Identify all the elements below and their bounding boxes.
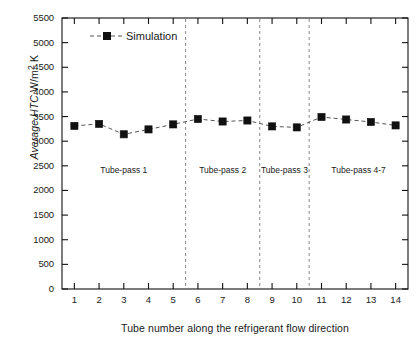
y-axis-tick-label: 2000 [20, 184, 54, 195]
data-point-marker [367, 118, 374, 125]
data-point-marker [96, 120, 103, 127]
tube-pass-label: Tube-pass 3 [261, 165, 308, 175]
y-axis-tick-label: 500 [20, 258, 54, 269]
plot-area [0, 0, 420, 350]
data-point-marker [293, 124, 300, 131]
x-axis-tick-label: 10 [287, 294, 307, 305]
y-axis-tick-label: 5000 [20, 37, 54, 48]
data-point-marker [343, 116, 350, 123]
x-axis-tick-label: 1 [64, 294, 84, 305]
y-axis-tick-label: 4000 [20, 86, 54, 97]
data-point-marker [318, 113, 325, 120]
x-axis-tick-label: 2 [89, 294, 109, 305]
y-axis-tick-label: 5500 [20, 12, 54, 23]
data-point-marker [219, 118, 226, 125]
chart-figure: Average HTC W/m2 K Tube number along the… [0, 0, 420, 350]
y-axis-tick-label: 3500 [20, 111, 54, 122]
x-axis-tick-label: 11 [312, 294, 332, 305]
y-axis-tick-label: 3000 [20, 135, 54, 146]
x-axis-tick-label: 4 [139, 294, 159, 305]
data-point-marker [392, 122, 399, 129]
data-point-marker [120, 131, 127, 138]
x-axis-tick-label: 9 [262, 294, 282, 305]
x-axis-tick-label: 6 [188, 294, 208, 305]
y-axis-tick-label: 2500 [20, 160, 54, 171]
tube-pass-label: Tube-pass 4-7 [331, 165, 386, 175]
y-axis-tick-label: 4500 [20, 61, 54, 72]
y-axis-tick-label: 1500 [20, 209, 54, 220]
x-axis-tick-label: 13 [361, 294, 381, 305]
legend-marker-sample [103, 32, 111, 40]
x-axis-tick-label: 12 [336, 294, 356, 305]
x-axis-tick-label: 5 [163, 294, 183, 305]
data-point-marker [170, 121, 177, 128]
x-axis-tick-label: 3 [114, 294, 134, 305]
data-point-marker [71, 122, 78, 129]
tube-pass-label: Tube-pass 2 [199, 165, 246, 175]
x-axis-tick-label: 7 [213, 294, 233, 305]
y-axis-tick-label: 0 [20, 283, 54, 294]
data-point-marker [145, 126, 152, 133]
plot-frame [62, 18, 408, 289]
data-point-marker [269, 123, 276, 130]
data-point-marker [194, 115, 201, 122]
y-axis-tick-label: 1000 [20, 234, 54, 245]
x-axis-tick-label: 14 [386, 294, 406, 305]
tube-pass-label: Tube-pass 1 [100, 165, 147, 175]
data-point-marker [244, 117, 251, 124]
x-axis-tick-label: 8 [237, 294, 257, 305]
